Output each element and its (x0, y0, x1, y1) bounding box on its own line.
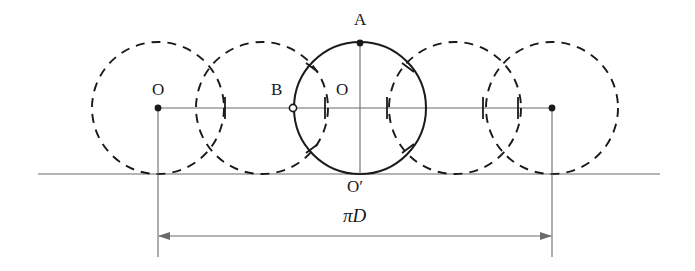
label-pi-D: πD (343, 206, 366, 225)
figure-canvas (0, 0, 695, 271)
label-O-center: O (336, 81, 348, 98)
label-O-prime: O′ (347, 178, 363, 195)
point-dot-right-center (549, 105, 556, 112)
label-B: B (271, 81, 282, 98)
label-A: A (354, 11, 366, 28)
point-hollow-B (289, 104, 296, 111)
point-dot-O-left (155, 105, 162, 112)
label-O-left: O (152, 81, 164, 98)
cycloid-diagram: O B O A O′ πD (0, 0, 695, 271)
dimension-arrowhead-left (158, 232, 170, 240)
dimension-arrowhead-right (540, 232, 552, 240)
point-dot-A (357, 40, 364, 47)
